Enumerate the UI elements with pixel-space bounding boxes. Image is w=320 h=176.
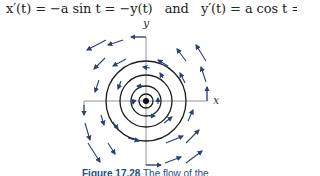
figure-caption: Figure 17.28 The flow of the — [82, 168, 209, 176]
caption-number: Figure 17.28 — [82, 168, 140, 176]
center-point — [143, 98, 149, 104]
x-axis-label: x — [213, 94, 219, 107]
caption-text: The flow of the — [143, 168, 209, 176]
y-axis-label: y — [143, 17, 149, 30]
